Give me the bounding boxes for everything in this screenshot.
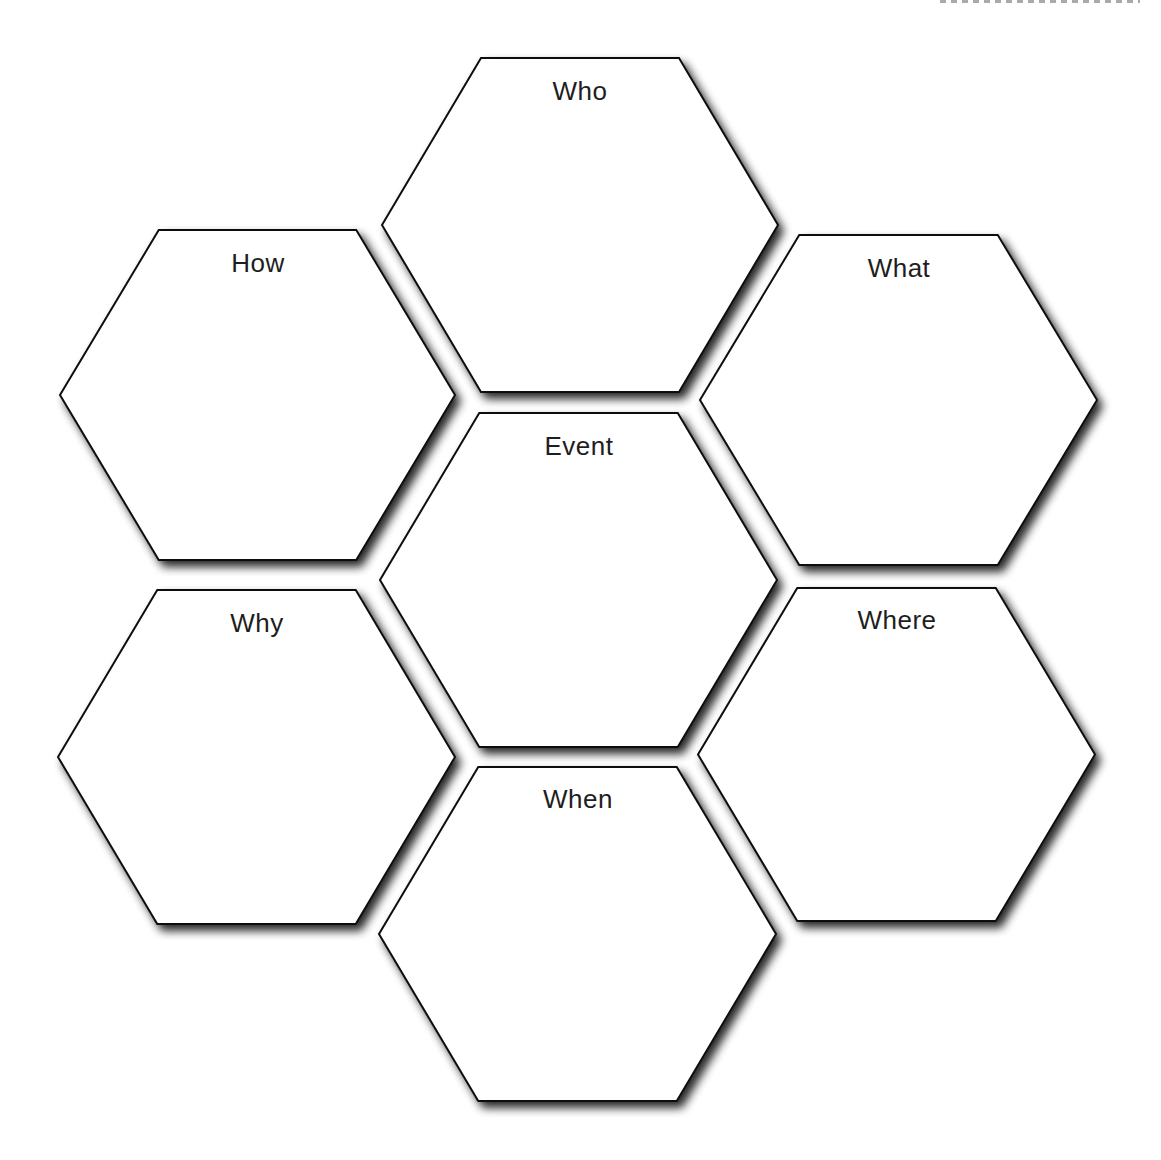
hexagon-canvas <box>0 0 1161 1160</box>
hex-label-who: Who <box>553 76 608 107</box>
hexagon-why <box>58 590 455 924</box>
hexagon-event <box>380 413 777 747</box>
hexagon-diagram: Who How What Event Why Where When <box>0 0 1161 1160</box>
hexagon-where <box>698 588 1095 921</box>
hexagon-how <box>60 230 455 560</box>
hex-label-how: How <box>231 248 285 279</box>
hexagon-what <box>700 235 1097 565</box>
hex-label-what: What <box>868 253 931 284</box>
hex-label-when: When <box>543 784 613 815</box>
hex-label-why: Why <box>230 608 284 639</box>
hexagon-when <box>379 767 776 1101</box>
hex-label-event: Event <box>545 431 614 462</box>
hex-label-where: Where <box>857 605 936 636</box>
hexagon-who <box>382 58 778 392</box>
